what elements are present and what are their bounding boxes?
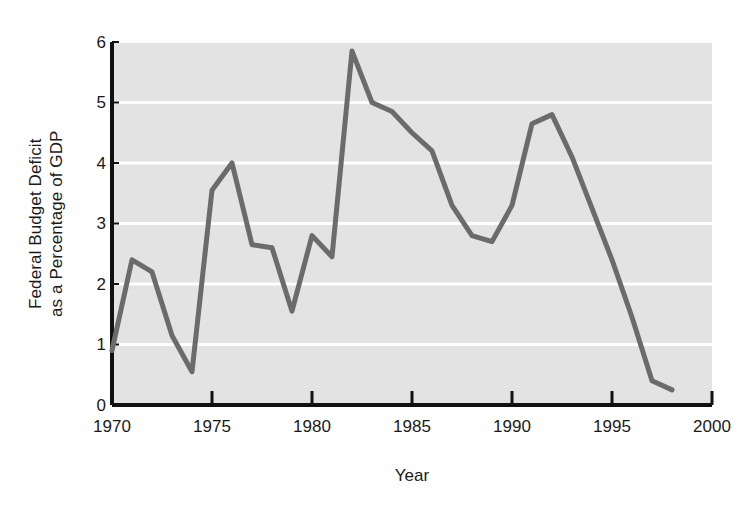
plot-svg — [0, 0, 753, 509]
chart-figure: Federal Budget Deficit as a Percentage o… — [0, 0, 753, 509]
